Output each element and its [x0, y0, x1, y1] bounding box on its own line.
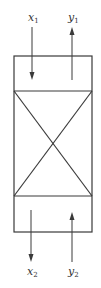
label-y1: y1 [67, 11, 79, 25]
arrow-y2-up [70, 212, 75, 262]
label-y2: y2 [67, 265, 79, 279]
label-x2: x2 [27, 265, 38, 279]
label-x1: x1 [28, 11, 39, 25]
arrow-x1-down [30, 27, 35, 80]
arrow-x2-down [29, 210, 34, 262]
diagram-canvas: x1 y1 x2 y2 [0, 0, 101, 288]
arrow-y1-up [70, 27, 75, 80]
